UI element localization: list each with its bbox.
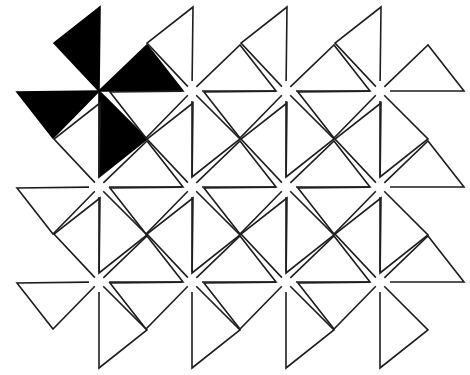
pinwheel-tiling-diagram bbox=[0, 0, 470, 375]
triangle-left bbox=[17, 282, 95, 329]
pinwheel-tiles bbox=[17, 7, 464, 368]
triangle-bottom bbox=[380, 286, 428, 368]
triangle-right bbox=[384, 45, 464, 91]
triangle-left bbox=[17, 91, 99, 138]
triangle-bottom bbox=[380, 191, 428, 273]
triangle-top bbox=[54, 7, 100, 91]
triangle-right bbox=[384, 236, 464, 282]
